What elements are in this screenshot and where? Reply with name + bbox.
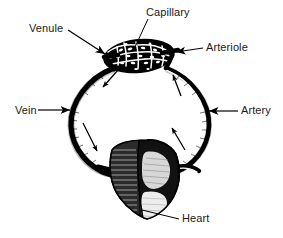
- label-arteriole: Arteriole: [206, 41, 248, 53]
- label-venule: Venule: [29, 22, 63, 34]
- vein-flow-lower-arrow: [83, 123, 97, 151]
- heart: [98, 138, 199, 222]
- label-artery: Artery: [241, 104, 271, 116]
- circulation-diagram-figure: Venule Capillary Arteriole Vein Artery H…: [0, 0, 283, 238]
- artery-flow-lower-arrow: [172, 128, 185, 150]
- label-vein: Vein: [15, 104, 37, 116]
- arteriole-vessel: [162, 50, 178, 53]
- venule-vessel: [104, 55, 118, 57]
- diagram-canvas: [0, 0, 283, 238]
- flow-arrows: [83, 70, 185, 151]
- venule-leader-line: [68, 30, 105, 54]
- label-capillary: Capillary: [146, 6, 190, 18]
- heart-vessel-left-side-stub: [98, 167, 110, 170]
- label-heart: Heart: [182, 212, 209, 224]
